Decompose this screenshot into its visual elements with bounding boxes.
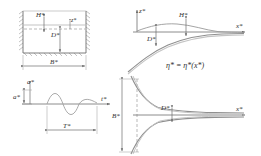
figure-container: H* z* D* B* z* x* — [0, 0, 261, 156]
tr-wave-height-label: H* — [178, 11, 188, 19]
br-lower-wall-shading — [133, 116, 244, 154]
tr-depth-label: D* — [146, 35, 156, 43]
tank-wave-height-label: H* — [35, 11, 45, 19]
panel-top-right: z* x* H* D* η* = η*(x*) — [128, 7, 245, 74]
surface-equation-label: η* = η*(x*) — [166, 61, 205, 70]
tank-z-axis-label: z* — [70, 17, 76, 23]
br-throat-width-label: D* — [160, 104, 170, 112]
bl-amplitude-top-label: a* — [27, 78, 35, 86]
tr-z-axis-label: z* — [138, 7, 146, 15]
br-lower-wall — [131, 117, 244, 154]
br-upper-wall-shading — [133, 76, 244, 114]
tank-width-label: B* — [50, 58, 58, 66]
br-x-axis-label: x* — [235, 105, 243, 113]
tank-depth-label: D* — [50, 31, 60, 39]
br-inlet-width-label: B* — [112, 112, 120, 120]
bl-time-axis-label: t* — [101, 95, 107, 103]
panel-bottom-right: x* B* D* — [112, 76, 245, 154]
bl-period-label: T* — [63, 122, 71, 130]
free-surface-curve — [137, 24, 243, 33]
br-upper-wall — [131, 76, 244, 113]
bl-amplitude-axis-label: a* — [13, 93, 21, 101]
figure-canvas: H* z* D* B* z* x* — [0, 0, 261, 156]
panel-bottom-left: a* a* t* T* — [13, 78, 110, 134]
panel-top-left: H* z* D* B* — [19, 11, 90, 70]
tr-x-axis-label: x* — [235, 22, 243, 30]
